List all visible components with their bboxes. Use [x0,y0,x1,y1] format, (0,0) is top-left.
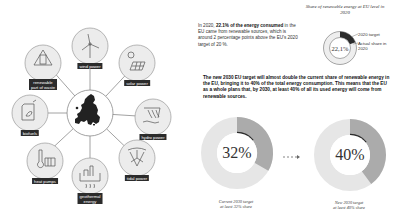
label-biofuels: biofuels [21,130,39,136]
small-donut-value: 22,1% [332,45,349,52]
label-line: solar power [126,81,148,86]
node-hydro [135,99,171,135]
donut-40-caption: New 2030 target at least 40% share [333,200,365,211]
small-donut-share [340,35,353,44]
dashed-arrow [283,155,300,159]
label-line: wind power [79,64,100,69]
label-line: part of waste [31,85,55,90]
donut-32-value: 32% [222,144,251,162]
label-heat-pumps: heat pumps [32,178,58,184]
label-line: biofuels [23,131,37,136]
main-paragraph: The new 2030 EU target will almost doubl… [203,75,393,100]
label-line: geothermal [80,194,101,199]
intro-prefix: In 2020, [198,23,216,28]
label-line: hydro power [141,135,164,140]
legend-2020-target: 2020 target [358,32,380,37]
label-line: tidal power [127,176,147,181]
small-chart-title: Share of renewable energy at EU level in… [305,4,385,16]
label-wind-power: wind power [77,63,102,69]
label-renewable-waste: renewable part of waste [29,79,57,90]
intro-paragraph: In 2020, 22.1% of the energy consumed in… [198,23,298,48]
node-biofuels [12,95,48,131]
label-hydro-power: hydro power [139,134,166,140]
label-line: energy [80,199,101,204]
donut-40-value: 40% [335,146,364,164]
label-line: renewable [31,80,55,85]
donut-32-caption: Current 2030 target at least 32% share [219,199,253,210]
legend-actual-share: Actual share in 2020 [358,41,392,51]
caption-line: at least 40% share [333,205,365,210]
label-line: heat pumps [34,179,56,184]
label-tidal-power: tidal power [125,175,149,181]
label-solar-power: solar power [124,80,150,86]
caption-line: at least 32% share [219,204,253,209]
intro-highlight: 22.1% of the energy consumed [216,23,283,28]
label-geothermal-energy: geothermal energy [78,193,103,204]
energy-sources-hub-diagram [0,0,190,222]
